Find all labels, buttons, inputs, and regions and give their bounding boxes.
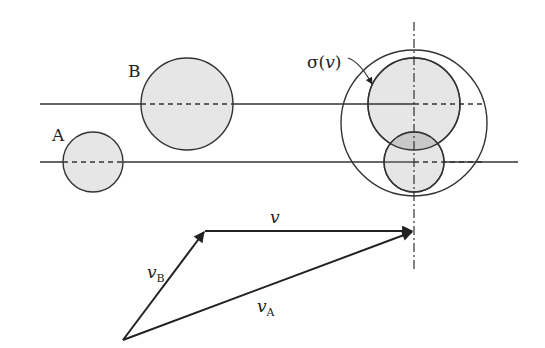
label-a: A: [51, 125, 65, 145]
relative-motion-diagram: A B σ(v) v vB vA: [0, 0, 545, 348]
label-b: B: [128, 61, 141, 81]
sigma-label: σ(v): [307, 52, 342, 72]
vector-va: [123, 232, 412, 340]
label-va: vA: [257, 296, 276, 319]
label-vb: vB: [147, 262, 165, 285]
label-v: v: [270, 207, 280, 227]
sigma-leader-arrow: [348, 58, 372, 84]
